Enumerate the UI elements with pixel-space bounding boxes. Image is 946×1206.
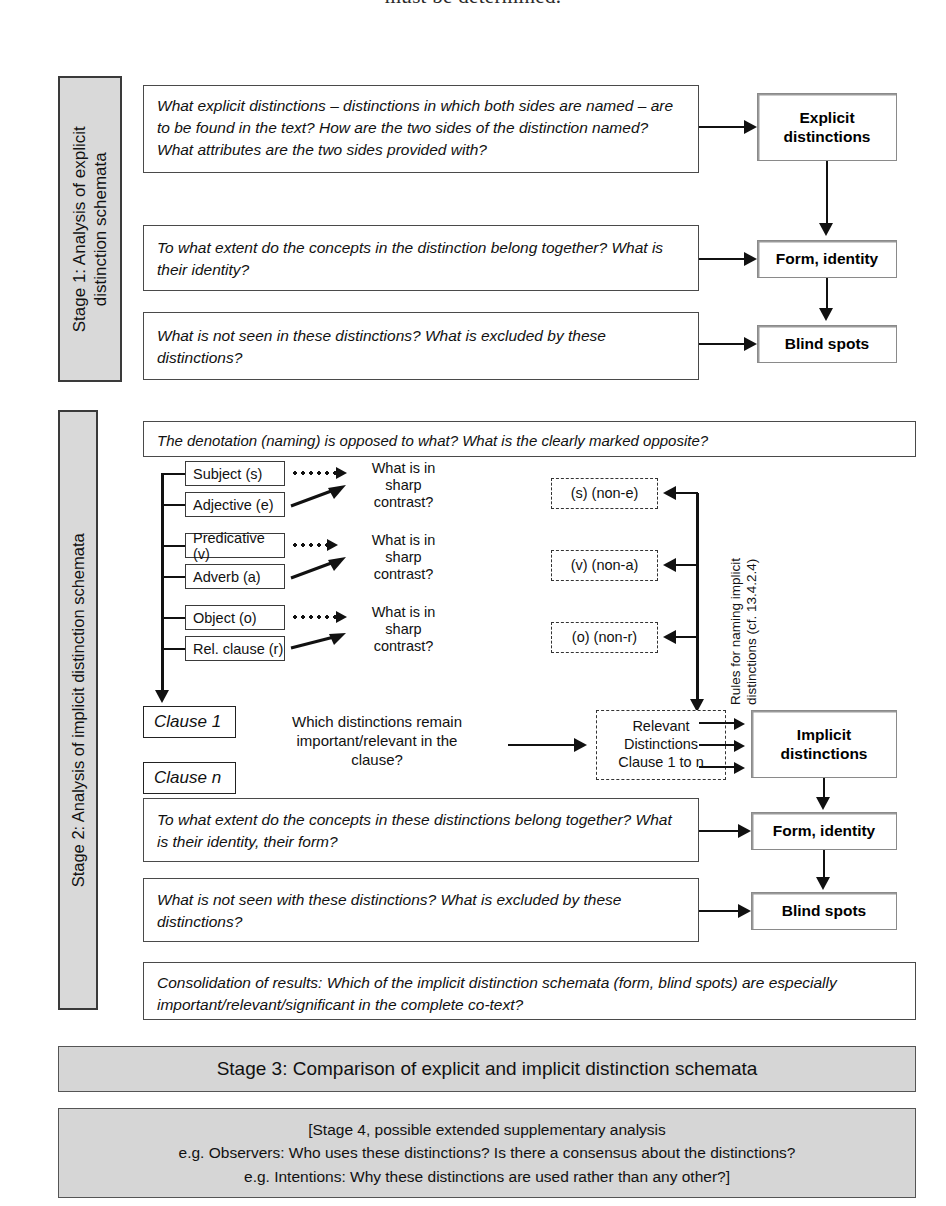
clause-question-line1: Which distinctions remain <box>292 713 462 730</box>
constituent-box-subject: Subject (s) <box>185 461 285 486</box>
constituent-label-6: Rel. clause (r) <box>193 641 283 657</box>
stage4-line-3: e.g. Intentions: Why these distinctions … <box>244 1165 730 1188</box>
implicit-feed-head-1 <box>734 718 745 730</box>
stage2-question-text-2: What is not seen with these distinctions… <box>157 891 621 930</box>
constituent-label-4: Adverb (a) <box>193 569 261 585</box>
stage1-label-box: Stage 1: Analysis of explicit distinctio… <box>58 76 122 382</box>
contrast-prompt-1-line3: contrast? <box>374 494 434 510</box>
stage2-frame <box>58 410 60 1010</box>
relevant-distinctions-line3: Clause 1 to n <box>618 754 703 772</box>
clause-question-line3: clause? <box>351 751 403 768</box>
contrast-prompt-2-line2: sharp <box>385 549 421 565</box>
implicit-feed-line-3 <box>699 766 735 768</box>
stage2-label-text: Stage 2: Analysis of implicit distinctio… <box>68 533 89 887</box>
relevant-distinctions-line1: Relevant <box>632 718 689 736</box>
rules-bus-vertical-line <box>696 493 699 701</box>
stage1-arrow-head-3 <box>744 337 757 351</box>
stage1-label-text: Stage 1: Analysis of explicit distinctio… <box>69 126 112 332</box>
rules-caption-wrapper: Rules for naming implicit distinctions (… <box>712 497 756 707</box>
rules-bus-branch-3 <box>676 636 698 638</box>
stage2-down-head-1 <box>816 797 830 810</box>
cut-off-running-text: must be determined. <box>0 0 946 9</box>
stage2-question-box-1: To what extent do the concepts in these … <box>143 798 699 862</box>
clause-label-2: Clause n <box>154 768 221 788</box>
stage1-question-text-2: To what extent do the concepts in the di… <box>157 239 663 278</box>
stage2-result-line1-3: Blind spots <box>782 901 866 920</box>
clause-question-line2: important/relevant in the <box>297 732 458 749</box>
stage2-arrow-line-1 <box>699 830 738 832</box>
stage1-question-box-1: What explicit distinctions – distinction… <box>143 85 699 173</box>
stage1-down-line-2 <box>826 278 828 308</box>
implicit-pair-label-2: (v) (non-a) <box>571 557 639 575</box>
stage1-result-line1-3: Blind spots <box>785 334 869 353</box>
bracket-stub-5 <box>161 617 185 619</box>
rules-bus-branch-2 <box>676 564 698 566</box>
constituent-label-5: Object (o) <box>193 610 257 626</box>
bracket-stub-2 <box>161 504 185 506</box>
contrast-arrow-solid-3 <box>290 628 348 654</box>
stage4-banner: [Stage 4, possible extended supplementar… <box>58 1108 916 1198</box>
contrast-arrow-solid-2 <box>290 552 348 582</box>
contrast-prompt-1-line2: sharp <box>385 477 421 493</box>
contrast-arrowhead-2 <box>327 539 338 551</box>
stage1-arrow-head-2 <box>744 252 757 266</box>
stage1-question-box-2: To what extent do the concepts in the di… <box>143 225 699 291</box>
constituent-label-3: Predicative (v) <box>193 530 284 562</box>
stage2-result-line2-1: distinctions <box>781 744 868 763</box>
stage2-top-question-box: The denotation (naming) is opposed to wh… <box>143 421 916 457</box>
rules-bus-arrowhead-2 <box>663 558 676 572</box>
stage2-label-box: Stage 2: Analysis of implicit distinctio… <box>58 410 98 1010</box>
stage1-label-line2: distinction schemata <box>90 126 111 332</box>
implicit-feed-line-2 <box>699 744 735 746</box>
stage2-result-form-identity: Form, identity <box>751 812 897 850</box>
implicit-pair-box-1: (s) (non-e) <box>551 478 658 509</box>
stage3-banner: Stage 3: Comparison of explicit and impl… <box>58 1046 916 1092</box>
contrast-prompt-1: What is in sharp contrast? <box>351 460 456 511</box>
constituent-bracket-trunk <box>161 474 164 690</box>
stage4-line-1: [Stage 4, possible extended supplementar… <box>308 1118 666 1141</box>
stage1-result-form-identity: Form, identity <box>757 240 897 278</box>
cut-off-running-text-clip: must be determined. <box>0 0 946 10</box>
stage1-label-line1: Stage 1: Analysis of explicit <box>70 126 89 332</box>
bracket-stub-4 <box>161 576 185 578</box>
stage3-banner-text: Stage 3: Comparison of explicit and impl… <box>217 1058 758 1080</box>
implicit-pair-box-3: (o) (non-r) <box>551 622 658 653</box>
stage1-question-text-1: What explicit distinctions – distinction… <box>157 97 673 158</box>
stage4-line-2: e.g. Observers: Who uses these distincti… <box>179 1141 796 1164</box>
stage1-down-line-1 <box>826 161 828 223</box>
rules-bus-arrowhead-1 <box>663 486 676 500</box>
bracket-stub-1 <box>161 473 185 475</box>
stage2-result-blind-spots: Blind spots <box>751 892 897 930</box>
rules-caption: Rules for naming implicit distinctions (… <box>728 558 760 705</box>
constituent-box-adjective: Adjective (e) <box>185 492 285 517</box>
stage2-consolidation-box: Consolidation of results: Which of the i… <box>143 962 916 1020</box>
contrast-connector-dotted-3 <box>291 615 338 619</box>
contrast-prompt-2-line3: contrast? <box>374 566 434 582</box>
constituent-box-object: Object (o) <box>185 605 285 630</box>
constituent-box-predicative: Predicative (v) <box>185 533 285 558</box>
contrast-arrow-solid-1 <box>290 480 348 510</box>
stage1-result-line1-1: Explicit <box>799 108 854 127</box>
clause-label-1: Clause 1 <box>154 712 221 732</box>
stage1-arrow-line-3 <box>699 343 744 345</box>
rules-bus-arrowhead-3 <box>663 630 676 644</box>
stage1-down-head-1 <box>819 223 833 236</box>
stage2-arrow-head-2 <box>738 904 751 918</box>
stage1-result-line1-2: Form, identity <box>776 249 878 268</box>
stage2-down-line-2 <box>823 850 825 878</box>
clause-question-arrow-line <box>508 744 574 746</box>
stage2-down-head-2 <box>816 877 830 890</box>
stage2-label-line1: Stage 2: Analysis of implicit distinctio… <box>69 533 87 887</box>
contrast-connector-dotted-1 <box>291 471 338 475</box>
implicit-feed-head-3 <box>734 762 745 774</box>
contrast-prompt-2-line1: What is in <box>372 532 436 548</box>
rules-caption-line2: distinctions (cf. 13.4.2.4) <box>744 558 760 705</box>
contrast-prompt-1-line1: What is in <box>372 460 436 476</box>
implicit-pair-box-2: (v) (non-a) <box>551 550 658 581</box>
clause-box-n: Clause n <box>143 762 236 794</box>
constituent-label-1: Subject (s) <box>193 466 262 482</box>
clause-question-arrow-head <box>574 738 587 752</box>
stage2-question-text-1: To what extent do the concepts in these … <box>157 811 672 850</box>
clause-question: Which distinctions remain important/rele… <box>262 713 492 769</box>
stage1-result-explicit-distinctions: Explicit distinctions <box>757 93 897 161</box>
